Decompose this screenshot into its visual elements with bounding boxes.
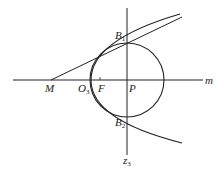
label-B2: B2	[115, 116, 126, 130]
label-M: M	[44, 82, 55, 94]
diagram-canvas: B1 B2 M O3 F P m z3	[0, 0, 219, 178]
label-P: P	[128, 82, 136, 94]
label-O3: O3	[78, 82, 90, 96]
label-z3: z3	[122, 154, 131, 168]
geometry-diagram: B1 B2 M O3 F P m z3	[0, 0, 219, 178]
label-B1: B1	[115, 29, 126, 43]
label-F: F	[97, 82, 105, 94]
parabola	[91, 14, 182, 143]
label-m: m	[205, 74, 213, 86]
